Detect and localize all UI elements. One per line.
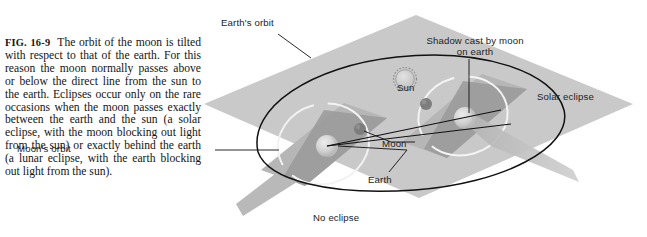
label-earths-orbit: Earth's orbit [221,17,274,28]
label-earth: Earth [368,174,392,185]
figure-number: FIG. 16-9 [5,37,50,48]
moon-dot-in-line [420,98,432,110]
moon-dot-above-plane [354,123,366,135]
figure-16-9: FIG. 16-9The orbit of the moon is tilted… [0,0,647,237]
figure-caption-text: The orbit of the moon is tilted with res… [5,36,201,178]
moon-dot-above-plane-hilite [356,125,361,130]
label-moon: Moon [382,138,407,149]
leader-earths-orbit [278,34,311,58]
figure-caption: FIG. 16-9The orbit of the moon is tilted… [5,37,201,179]
label-moons-orbit: Moon's orbit [17,143,71,154]
label-shadow-cast: Shadow cast by moon on earth [423,36,527,57]
eclipse-diagram: Earth's orbit Shadow cast by moon on ear… [201,0,647,237]
lunar-plane-left-tab [236,174,297,216]
label-solar-eclipse: Solar eclipse [537,91,594,102]
moon-dot-in-line-hilite [422,100,427,105]
label-sun: Sun [397,82,415,93]
label-no-eclipse: No eclipse [313,212,359,223]
